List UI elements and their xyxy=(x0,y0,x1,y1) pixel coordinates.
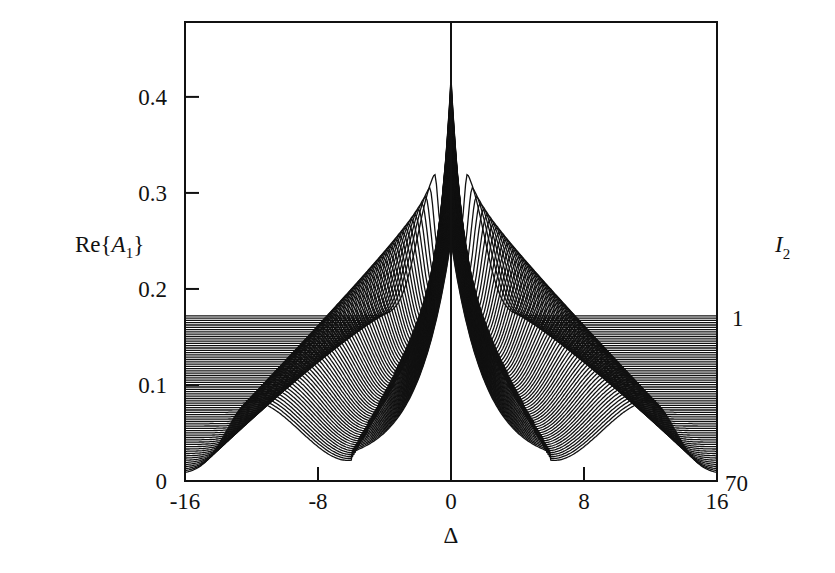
y-tick-label: 0 xyxy=(156,469,168,494)
x-tick-label: 0 xyxy=(445,489,457,514)
y-tick-label: 0.4 xyxy=(138,85,167,110)
x-axis-title: Δ xyxy=(444,523,459,548)
family-bottom-label: 70 xyxy=(725,471,748,496)
x-axis-ticks: -16-80816 xyxy=(170,467,729,514)
y-axis-title: Re{A1} xyxy=(75,232,144,261)
family-top-label: 1 xyxy=(732,306,744,331)
y-tick-label: 0.2 xyxy=(138,277,167,302)
x-tick-label: 8 xyxy=(578,489,590,514)
family-parameter-label: I2 xyxy=(774,232,790,262)
line-chart: 00.10.20.30.4 -16-80816 Re{A1} Δ I2 1 70 xyxy=(0,0,835,573)
x-tick-label: -16 xyxy=(170,489,201,514)
x-tick-label: -8 xyxy=(308,489,327,514)
y-tick-label: 0.1 xyxy=(138,373,167,398)
y-tick-label: 0.3 xyxy=(138,181,167,206)
